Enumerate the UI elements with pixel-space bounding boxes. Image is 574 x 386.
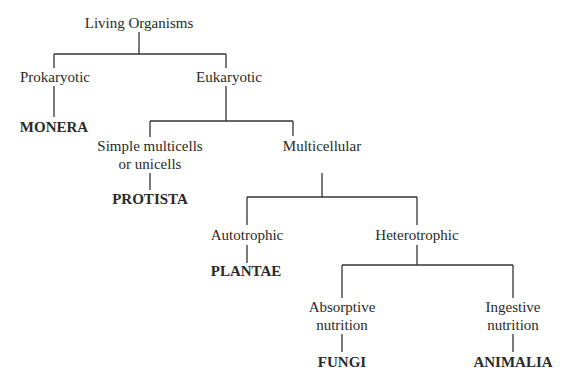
node-living-organisms: Living Organisms	[85, 14, 193, 32]
node-simple-line1: Simple multicells	[97, 137, 202, 155]
node-ingestive-nutrition: Ingestive nutrition	[486, 298, 541, 334]
node-absorptive-nutrition: Absorptive nutrition	[309, 298, 376, 334]
node-eukaryotic: Eukaryotic	[196, 68, 262, 86]
node-ingestive-line1: Ingestive	[486, 298, 541, 316]
kingdom-animalia: ANIMALIA	[473, 353, 552, 371]
kingdom-monera: MONERA	[20, 118, 88, 136]
kingdom-protista: PROTISTA	[112, 190, 188, 208]
node-heterotrophic: Heterotrophic	[375, 226, 458, 244]
kingdom-fungi: FUNGI	[318, 353, 366, 371]
node-absorptive-line1: Absorptive	[309, 298, 376, 316]
node-ingestive-line2: nutrition	[486, 316, 541, 334]
node-multicellular: Multicellular	[283, 137, 361, 155]
node-simple-multicells: Simple multicells or unicells	[97, 137, 202, 173]
node-autotrophic: Autotrophic	[211, 226, 284, 244]
node-prokaryotic: Prokaryotic	[20, 68, 90, 86]
kingdom-plantae: PLANTAE	[211, 262, 282, 280]
node-absorptive-line2: nutrition	[309, 316, 376, 334]
node-simple-line2: or unicells	[97, 155, 202, 173]
